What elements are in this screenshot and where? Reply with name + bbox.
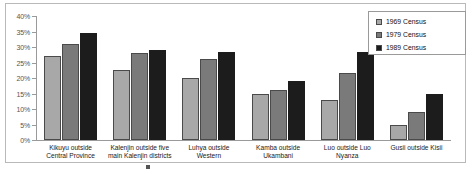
bar (408, 112, 425, 140)
bar (339, 73, 356, 140)
y-axis-tick-label: 5% (20, 121, 30, 128)
bar (80, 33, 97, 140)
legend-entry-1989: 1989 Census (376, 41, 465, 54)
x-axis-category-label: Luo outside Luo Nyanza (313, 144, 382, 160)
y-axis-tick-label: 40% (17, 13, 30, 20)
y-axis-tick-label: 0% (20, 137, 30, 144)
caption-strip (0, 166, 471, 181)
y-axis-tick-label: 30% (17, 44, 30, 51)
bar (288, 81, 305, 140)
legend-label-1979: 1979 Census (386, 31, 426, 38)
y-axis-tick-label: 15% (17, 90, 30, 97)
chart-frame: 40%35%30%25%20%15%10%5%0% Kikuyu outside… (5, 3, 466, 163)
bar (252, 94, 269, 141)
bar (270, 90, 287, 140)
bar-group (105, 16, 174, 140)
bar (218, 52, 235, 140)
bar-group (174, 16, 243, 140)
bar (200, 59, 217, 140)
bar (62, 44, 79, 140)
bar-group (36, 16, 105, 140)
x-axis-category-label: Gusii outside Kisii (382, 144, 451, 160)
legend-entry-1969: 1969 Census (376, 15, 465, 28)
bar (149, 50, 166, 140)
chart-figure: 40%35%30%25%20%15%10%5%0% Kikuyu outside… (0, 0, 471, 181)
x-axis-category-label: Kikuyu outside Central Province (36, 144, 105, 160)
x-axis-category-label: Kamba outside Ukambani (244, 144, 313, 160)
legend-label-1969: 1969 Census (386, 18, 426, 25)
x-axis-category-label: Kalenjin outside five main Kalenjin dist… (105, 144, 174, 160)
legend-swatch-icon-1979 (376, 32, 382, 38)
bar-group (244, 16, 313, 140)
bar (357, 52, 374, 140)
y-axis-tick-label: 20% (17, 75, 30, 82)
y-axis-tick (32, 140, 36, 141)
x-axis-category-labels: Kikuyu outside Central ProvinceKalenjin … (36, 144, 451, 160)
legend-swatch-icon-1989 (376, 45, 382, 51)
x-axis-line (36, 140, 451, 141)
bar (426, 94, 443, 141)
bar (321, 100, 338, 140)
y-axis-tick-label: 10% (17, 106, 30, 113)
bar (44, 56, 61, 140)
legend-label-1989: 1989 Census (386, 44, 426, 51)
bar (131, 53, 148, 140)
y-axis-tick-label: 25% (17, 59, 30, 66)
bar (113, 70, 130, 140)
chart-legend: 1969 Census 1979 Census 1989 Census (368, 11, 466, 55)
legend-entry-1979: 1979 Census (376, 28, 465, 41)
legend-swatch-icon-1969 (376, 19, 382, 25)
y-axis-tick-label: 35% (17, 28, 30, 35)
x-axis-category-label: Luhya outside Western (174, 144, 243, 160)
bar (182, 78, 199, 140)
bar (390, 125, 407, 141)
